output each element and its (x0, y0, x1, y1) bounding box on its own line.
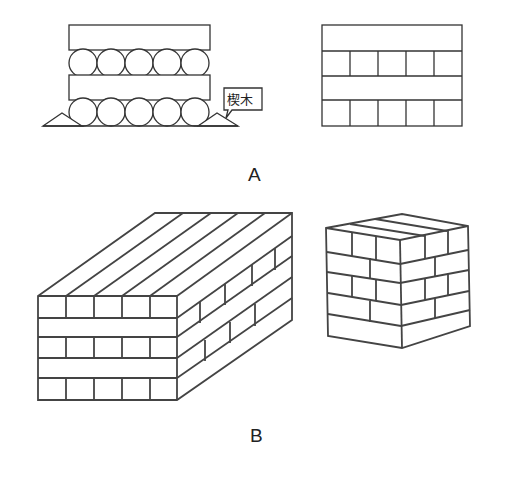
brick-elevation-diagram (322, 25, 462, 126)
panel-b-drawings (38, 213, 470, 400)
log-stack-diagram (43, 25, 262, 126)
wedge-callout-label: 楔木 (227, 89, 253, 108)
panel-a-label: A (248, 164, 261, 186)
figure-canvas (0, 0, 510, 482)
large-block-stack (38, 213, 292, 400)
panel-b-label: B (250, 425, 263, 447)
cube-block-stack (326, 214, 470, 348)
